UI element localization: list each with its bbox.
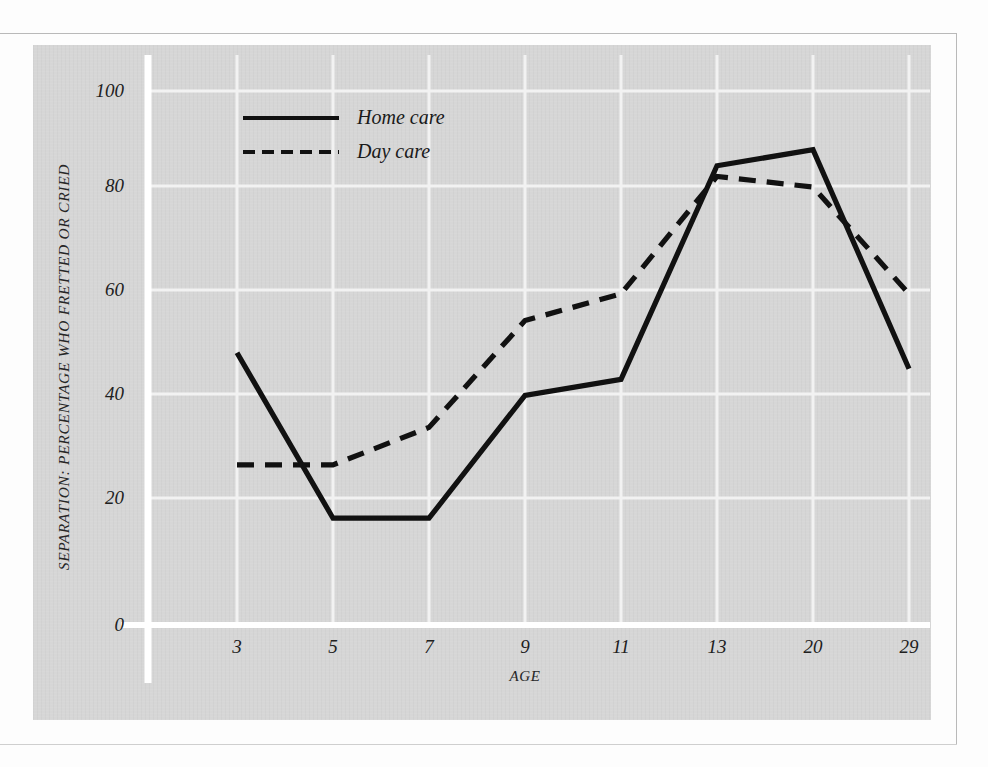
line-chart	[0, 0, 988, 767]
y-tick-label-60: 60	[78, 279, 124, 301]
x-tick-label-7: 7	[404, 636, 454, 658]
legend-solid-line-icon	[243, 112, 339, 122]
x-tick-label-5: 5	[308, 636, 358, 658]
chart-legend: Home care Day care	[243, 100, 445, 168]
x-tick-label-29: 29	[884, 636, 934, 658]
legend-label-day-care: Day care	[357, 140, 430, 163]
series-line-day-care	[237, 176, 909, 464]
x-axis-title: AGE	[475, 668, 575, 685]
y-tick-label-80: 80	[78, 175, 124, 197]
scanned-page: 100 80 60 40 20 0 SEPARATION: PERCENTAGE…	[0, 0, 988, 767]
y-tick-label-20: 20	[78, 487, 124, 509]
y-axis-title: SEPARATION: PERCENTAGE WHO FRETTED OR CR…	[55, 107, 73, 627]
legend-label-home-care: Home care	[357, 106, 445, 129]
legend-item-day-care: Day care	[243, 134, 445, 168]
legend-dashed-line-icon	[243, 146, 339, 156]
legend-item-home-care: Home care	[243, 100, 445, 134]
series-line-home-care	[237, 150, 909, 519]
x-tick-label-11: 11	[596, 636, 646, 658]
x-tick-label-20: 20	[788, 636, 838, 658]
x-tick-label-13: 13	[692, 636, 742, 658]
y-tick-label-40: 40	[78, 383, 124, 405]
y-tick-label-100: 100	[78, 80, 124, 102]
x-tick-label-9: 9	[500, 636, 550, 658]
y-tick-label-0: 0	[78, 614, 124, 636]
x-tick-label-3: 3	[212, 636, 262, 658]
